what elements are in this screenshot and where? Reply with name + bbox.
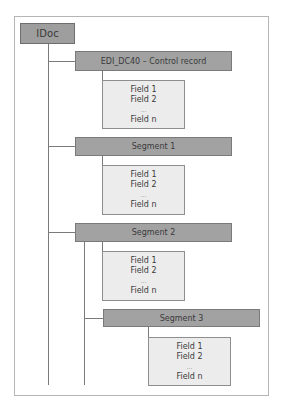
field-ellipsis: ... [141, 276, 147, 286]
field-item: Field 2 [130, 266, 156, 276]
segment-2-fields-box: Field 1 Field 2 ... Field n [102, 251, 185, 301]
connector-edi-dc40 [48, 61, 75, 62]
field-ellipsis: ... [141, 190, 147, 200]
connector-segment-2 [48, 232, 75, 233]
connector-segment-3 [84, 318, 103, 319]
field-item: Field 1 [130, 170, 156, 180]
field-item: Field 1 [176, 342, 202, 352]
edi-dc40-fields-line [102, 71, 103, 80]
field-item: Field n [130, 200, 156, 210]
segment-2-trunk-line [84, 242, 85, 385]
segment-2-node: Segment 2 [75, 223, 232, 242]
field-ellipsis: ... [141, 105, 147, 115]
segment-2-fields-line [102, 242, 103, 251]
segment-3-fields-line [148, 327, 149, 337]
idoc-root-node: IDoc [20, 23, 75, 44]
segment-3-label: Segment 3 [160, 314, 204, 323]
segment-2-label: Segment 2 [132, 228, 176, 237]
edi-dc40-control-record-node: EDI_DC40 – Control record [75, 51, 232, 71]
edi-dc40-label: EDI_DC40 – Control record [101, 57, 207, 66]
field-item: Field 2 [176, 352, 202, 362]
field-item: Field n [130, 286, 156, 296]
field-item: Field 1 [130, 256, 156, 266]
segment-1-node: Segment 1 [75, 137, 232, 156]
segment-1-label: Segment 1 [132, 142, 176, 151]
field-item: Field n [176, 372, 202, 382]
field-item: Field 2 [130, 180, 156, 190]
field-item: Field 1 [130, 85, 156, 95]
segment-1-fields-box: Field 1 Field 2 ... Field n [102, 165, 185, 215]
root-trunk-line [48, 44, 49, 385]
connector-segment-1 [48, 146, 75, 147]
field-ellipsis: ... [187, 362, 193, 372]
edi-dc40-fields-box: Field 1 Field 2 ... Field n [102, 80, 185, 129]
idoc-root-label: IDoc [36, 28, 58, 39]
segment-3-fields-box: Field 1 Field 2 ... Field n [148, 337, 231, 386]
segment-3-node: Segment 3 [103, 309, 260, 327]
segment-1-fields-line [102, 156, 103, 165]
field-item: Field 2 [130, 95, 156, 105]
field-item: Field n [130, 115, 156, 125]
